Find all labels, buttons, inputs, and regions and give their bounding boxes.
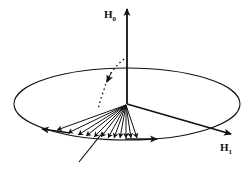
h1-axis-label: H1 xyxy=(220,141,232,156)
projection-line xyxy=(79,132,103,162)
precession-diagram xyxy=(0,0,251,172)
magnetization-vector-fan xyxy=(57,105,137,138)
dotted-rotation-path xyxy=(98,59,124,110)
h1-axis-arrow xyxy=(127,104,231,134)
h0-axis-label: H0 xyxy=(104,8,116,23)
ellipse-circulation-arrows xyxy=(42,129,157,139)
